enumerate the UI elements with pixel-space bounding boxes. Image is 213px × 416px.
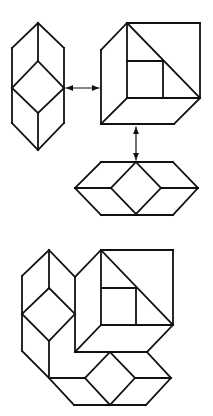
edge-line	[49, 378, 74, 405]
tiling-diagram	[0, 0, 213, 416]
edge-line	[136, 162, 161, 188]
edge-line	[110, 378, 135, 405]
edge-line	[12, 61, 38, 88]
edge-line	[146, 378, 171, 405]
diagram-canvas	[0, 0, 213, 416]
edge-line	[38, 23, 64, 48]
edge-line	[22, 351, 49, 378]
vertical-double-arrow-icon	[133, 127, 139, 160]
edge-line	[147, 325, 173, 352]
vertical-hexagon-figure	[12, 23, 64, 150]
edge-line	[75, 250, 101, 277]
edge-line	[173, 188, 198, 215]
edge-line	[111, 188, 136, 214]
edge-line	[101, 23, 127, 50]
arrowhead-icon	[133, 127, 139, 134]
edge-line	[111, 162, 136, 188]
arrowhead-icon	[133, 153, 139, 160]
edge-line	[49, 314, 75, 341]
edge-line	[75, 188, 101, 215]
composite-figure	[22, 250, 173, 405]
edge-line	[101, 98, 127, 124]
edge-line	[174, 98, 200, 124]
flat-hexagon-figure	[75, 162, 198, 215]
edge-line	[22, 288, 49, 314]
edge-line	[173, 162, 198, 188]
edge-line	[22, 250, 49, 276]
edge-line	[12, 23, 38, 48]
edge-line	[38, 61, 64, 88]
edge-line	[12, 123, 38, 150]
edge-line	[75, 325, 101, 352]
horizontal-double-arrow-icon	[66, 85, 99, 91]
edge-line	[22, 314, 49, 341]
edge-line	[38, 123, 64, 150]
arrowhead-icon	[66, 85, 73, 91]
cube-with-square-figure	[101, 23, 200, 124]
edge-line	[49, 250, 75, 277]
edge-line	[85, 378, 110, 405]
edge-line	[110, 352, 135, 378]
edge-line	[49, 288, 75, 314]
arrowhead-icon	[92, 85, 99, 91]
edge-line	[12, 88, 38, 113]
edge-line	[75, 162, 101, 188]
edge-line	[147, 352, 171, 378]
edge-line	[38, 88, 64, 113]
edge-line	[136, 188, 161, 214]
edge-line	[85, 352, 110, 378]
